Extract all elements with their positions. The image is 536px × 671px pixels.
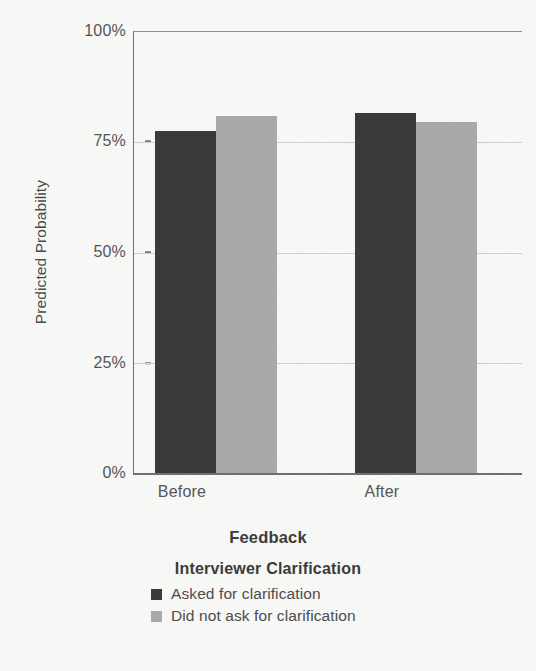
x-tick-label-after: After: [302, 483, 462, 501]
y-tick-label-25: 25%: [26, 354, 126, 372]
y-tick-label-100: 100%: [26, 22, 126, 40]
legend-label-asked: Asked for clarification: [171, 585, 321, 603]
legend-label-did-not-ask: Did not ask for clarification: [171, 607, 356, 625]
bar-chart-figure: Predicted Probability 100% 75% 50% 25% 0…: [0, 0, 536, 671]
legend: Interviewer Clarification Asked for clar…: [0, 560, 536, 629]
bar-after-asked: [355, 113, 416, 473]
legend-swatch-dark-icon: [151, 589, 162, 600]
y-tick-label-75: 75%: [26, 132, 126, 150]
x-axis-title: Feedback: [0, 528, 536, 547]
x-tick-label-before: Before: [102, 483, 262, 501]
y-tick-label-50: 50%: [26, 243, 126, 261]
bar-before-asked: [155, 131, 216, 473]
plot-inner: [134, 32, 522, 473]
y-tick-label-0: 0%: [26, 464, 126, 482]
legend-swatch-light-icon: [151, 611, 162, 622]
x-axis-line: [133, 473, 522, 475]
bar-after-did-not-ask: [416, 122, 477, 473]
legend-item-asked[interactable]: Asked for clarification: [0, 585, 536, 603]
legend-title: Interviewer Clarification: [0, 560, 536, 578]
plot-area: [133, 31, 522, 473]
bar-before-did-not-ask: [216, 116, 277, 473]
legend-item-did-not-ask[interactable]: Did not ask for clarification: [0, 607, 536, 625]
